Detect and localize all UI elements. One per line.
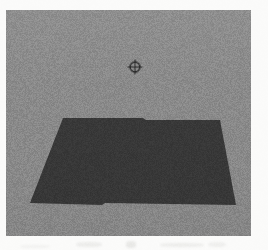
ground-plane	[6, 10, 251, 236]
scan-smudge	[208, 242, 226, 247]
crosshair-icon[interactable]	[127, 59, 143, 75]
scan-smudge	[20, 245, 50, 248]
viewport-shading	[6, 10, 251, 236]
scan-smudge	[76, 242, 102, 247]
scan-smudge	[126, 241, 136, 248]
ground-plane-polygon	[30, 118, 236, 205]
scene-viewport[interactable]	[6, 10, 251, 236]
scan-sheet	[0, 0, 268, 250]
scan-smudge	[160, 243, 204, 247]
